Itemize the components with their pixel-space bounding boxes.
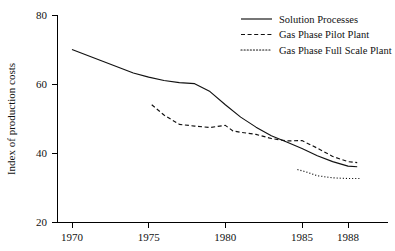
x-tick-label-1970: 1970 bbox=[61, 231, 84, 243]
y-tick-label-group: 20406080 bbox=[36, 9, 48, 228]
y-tick-label-60: 60 bbox=[36, 78, 48, 90]
y-tick-label-40: 40 bbox=[36, 147, 48, 159]
y-axis-title: Index of production costs bbox=[5, 63, 17, 175]
x-tick-label-1985: 1985 bbox=[291, 231, 314, 243]
y-tick-group bbox=[52, 15, 58, 222]
legend-label-0: Solution Processes bbox=[279, 14, 358, 25]
x-tick-label-group: 19701975198019851988 bbox=[61, 231, 360, 243]
y-tick-label-20: 20 bbox=[36, 216, 48, 228]
x-axis-group: 19701975198019851988 bbox=[58, 223, 389, 244]
x-tick-label-1980: 1980 bbox=[214, 231, 237, 243]
series-line-solution-processes bbox=[72, 50, 357, 167]
series-group bbox=[72, 50, 360, 179]
line-chart: 20406080 19701975198019851988 Index of p… bbox=[0, 0, 395, 251]
y-axis-group: 20406080 bbox=[36, 9, 58, 228]
legend-label-2: Gas Phase Full Scale Plant bbox=[279, 45, 392, 56]
chart-legend: Solution ProcessesGas Phase Pilot PlantG… bbox=[241, 14, 392, 56]
x-tick-label-1975: 1975 bbox=[138, 231, 161, 243]
x-tick-group bbox=[72, 223, 348, 229]
legend-label-1: Gas Phase Pilot Plant bbox=[279, 29, 369, 40]
series-line-gas-phase-full-scale-plant bbox=[297, 170, 360, 179]
series-line-gas-phase-pilot-plant bbox=[152, 105, 357, 163]
chart-container: 20406080 19701975198019851988 Index of p… bbox=[0, 0, 395, 251]
y-tick-label-80: 80 bbox=[36, 9, 48, 21]
x-tick-label-1988: 1988 bbox=[337, 231, 360, 243]
